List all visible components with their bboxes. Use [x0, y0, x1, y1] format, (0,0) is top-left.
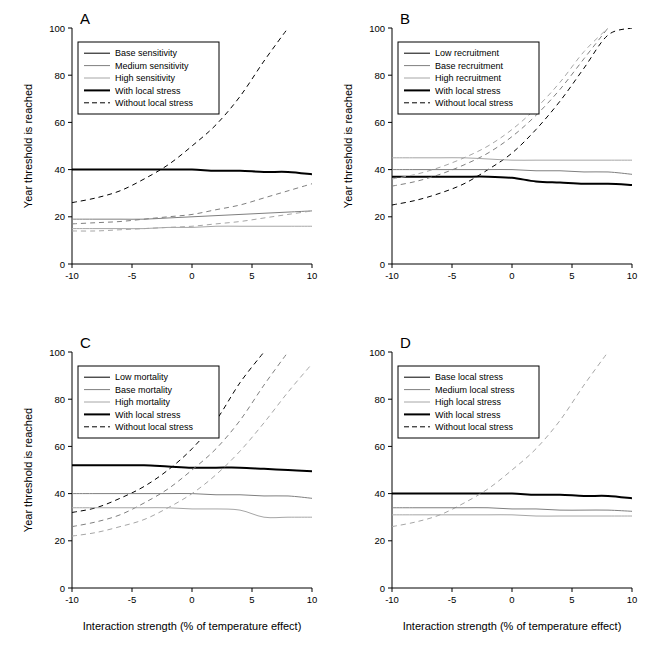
legend-label: Base mortality [115, 385, 173, 395]
y-tick-label: 100 [369, 347, 385, 358]
legend-label: Low recruitment [435, 48, 500, 58]
legend-label: With local stress [435, 410, 501, 420]
panel-C: 020406080100-10-50510CYear threshold is … [22, 334, 317, 632]
x-tick-label: -5 [128, 270, 136, 281]
y-tick-label: 100 [369, 23, 385, 34]
x-axis-title: Interaction strength (% of temperature e… [403, 620, 622, 632]
panel-label-A: A [80, 10, 90, 27]
x-tick-label: 10 [627, 270, 638, 281]
panel-label-D: D [400, 334, 411, 351]
y-tick-label: 20 [54, 211, 65, 222]
series-line [392, 158, 632, 161]
series-line [72, 211, 312, 219]
legend-label: High local stress [435, 397, 502, 407]
series-line [72, 184, 312, 224]
y-axis-title: Year threshold is reached [22, 84, 34, 208]
legend-label: High sensitivity [115, 73, 176, 83]
y-tick-label: 80 [374, 70, 385, 81]
legend-label: Base sensitivity [115, 48, 178, 58]
x-tick-label: 5 [569, 594, 574, 605]
x-tick-label: -5 [448, 594, 456, 605]
y-tick-label: 40 [374, 164, 385, 175]
legend-label: Base recruitment [435, 61, 504, 71]
x-tick-label: 0 [189, 594, 194, 605]
legend-label: Without local stress [435, 422, 514, 432]
x-tick-label: 0 [189, 270, 194, 281]
legend-label: Medium sensitivity [115, 61, 189, 71]
legend-label: Without local stress [115, 98, 194, 108]
legend-C: Low mortalityBase mortalityHigh mortalit… [78, 366, 219, 438]
legend-label: With local stress [435, 86, 501, 96]
series-line [392, 515, 632, 516]
legend-label: Medium local stress [435, 385, 515, 395]
series-line [72, 508, 312, 518]
legend-B: Low recruitmentBase recruitmentHigh recr… [398, 42, 539, 114]
legend-label: Without local stress [435, 98, 514, 108]
x-tick-label: -5 [128, 594, 136, 605]
y-tick-label: 80 [374, 394, 385, 405]
series-line [72, 170, 312, 175]
y-tick-label: 40 [54, 164, 65, 175]
legend-label: High mortality [115, 397, 171, 407]
y-axis-title: Year threshold is reached [22, 408, 34, 532]
legend-label: With local stress [115, 86, 181, 96]
panel-label-C: C [80, 334, 91, 351]
x-tick-label: 0 [509, 594, 514, 605]
y-tick-label: 20 [374, 211, 385, 222]
series-line [72, 211, 312, 231]
x-axis-title: Interaction strength (% of temperature e… [83, 620, 302, 632]
x-tick-label: 10 [307, 594, 318, 605]
x-tick-label: 0 [509, 270, 514, 281]
four-panel-line-chart: 020406080100-10-50510AYear threshold is … [0, 0, 668, 658]
series-line [72, 494, 312, 499]
legend-label: High recruitment [435, 73, 502, 83]
x-tick-label: -10 [385, 594, 399, 605]
x-tick-label: -10 [385, 270, 399, 281]
y-tick-label: 80 [54, 70, 65, 81]
x-tick-label: -10 [65, 594, 79, 605]
legend-label: Low mortality [115, 372, 169, 382]
x-tick-label: 10 [627, 594, 638, 605]
x-tick-label: 5 [569, 270, 574, 281]
legend-label: Base local stress [435, 372, 504, 382]
y-tick-label: 100 [49, 347, 65, 358]
x-tick-label: 5 [249, 270, 254, 281]
y-tick-label: 0 [380, 259, 385, 270]
legend-label: With local stress [115, 410, 181, 420]
series-line [392, 508, 632, 512]
y-tick-label: 20 [374, 535, 385, 546]
y-tick-label: 40 [54, 488, 65, 499]
panel-A: 020406080100-10-50510AYear threshold is … [22, 10, 317, 281]
series-line [72, 465, 312, 471]
panel-D: 020406080100-10-50510DInteraction streng… [369, 334, 637, 632]
y-tick-label: 40 [374, 488, 385, 499]
y-tick-label: 0 [60, 583, 65, 594]
legend-A: Base sensitivityMedium sensitivityHigh s… [78, 42, 219, 114]
y-tick-label: 80 [54, 394, 65, 405]
x-tick-label: -5 [448, 270, 456, 281]
y-tick-label: 60 [54, 117, 65, 128]
y-tick-label: 0 [60, 259, 65, 270]
legend-D: Base local stressMedium local stressHigh… [398, 366, 539, 438]
y-axis-title: Year threshold is reached [342, 84, 354, 208]
x-tick-label: 10 [307, 270, 318, 281]
figure-canvas: 020406080100-10-50510AYear threshold is … [0, 0, 668, 658]
y-tick-label: 60 [54, 441, 65, 452]
y-tick-label: 0 [380, 583, 385, 594]
x-tick-label: -10 [65, 270, 79, 281]
y-tick-label: 20 [54, 535, 65, 546]
panel-label-B: B [400, 10, 410, 27]
panel-B: 020406080100-10-50510BYear threshold is … [342, 10, 637, 281]
y-tick-label: 60 [374, 441, 385, 452]
y-tick-label: 60 [374, 117, 385, 128]
series-line [392, 170, 632, 175]
legend-label: Without local stress [115, 422, 194, 432]
series-line [392, 494, 632, 499]
y-tick-label: 100 [49, 23, 65, 34]
x-tick-label: 5 [249, 594, 254, 605]
